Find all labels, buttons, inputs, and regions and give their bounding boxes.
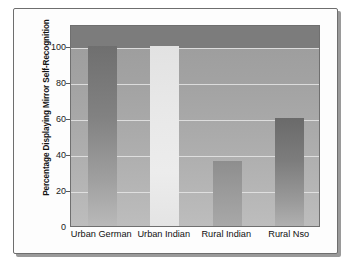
y-axis-tick-labels: 020406080100 bbox=[38, 25, 66, 227]
bar-urban-german bbox=[88, 46, 117, 226]
x-axis-label-rural-nso: Rural Nso bbox=[258, 229, 321, 239]
x-axis-category-labels: Urban GermanUrban IndianRural IndianRura… bbox=[70, 229, 320, 245]
plot-area bbox=[70, 25, 320, 227]
x-axis-label-urban-german: Urban German bbox=[70, 229, 133, 239]
y-axis-tick-mark bbox=[66, 155, 70, 156]
bar-rural-nso bbox=[275, 118, 304, 226]
y-axis-tick-label: 60 bbox=[40, 114, 66, 124]
y-axis-tick-mark bbox=[66, 191, 70, 192]
chart-area: Percentage Displaying Mirror Self-Recogn… bbox=[13, 8, 338, 254]
y-axis-tick-label: 0 bbox=[40, 222, 66, 232]
bars-group bbox=[71, 26, 319, 226]
y-axis-tick-mark bbox=[66, 47, 70, 48]
bar-urban-indian bbox=[150, 46, 179, 226]
bar-rural-indian bbox=[213, 161, 242, 226]
y-axis-tick-label: 40 bbox=[40, 150, 66, 160]
x-axis-label-urban-indian: Urban Indian bbox=[133, 229, 196, 239]
y-axis-tick-label: 80 bbox=[40, 78, 66, 88]
figure-root: Percentage Displaying Mirror Self-Recogn… bbox=[0, 0, 348, 267]
x-axis-label-rural-indian: Rural Indian bbox=[195, 229, 258, 239]
y-axis-tick-label: 20 bbox=[40, 186, 66, 196]
y-axis-tick-mark bbox=[66, 83, 70, 84]
y-axis-tick-label: 100 bbox=[40, 42, 66, 52]
y-axis-tick-mark bbox=[66, 119, 70, 120]
